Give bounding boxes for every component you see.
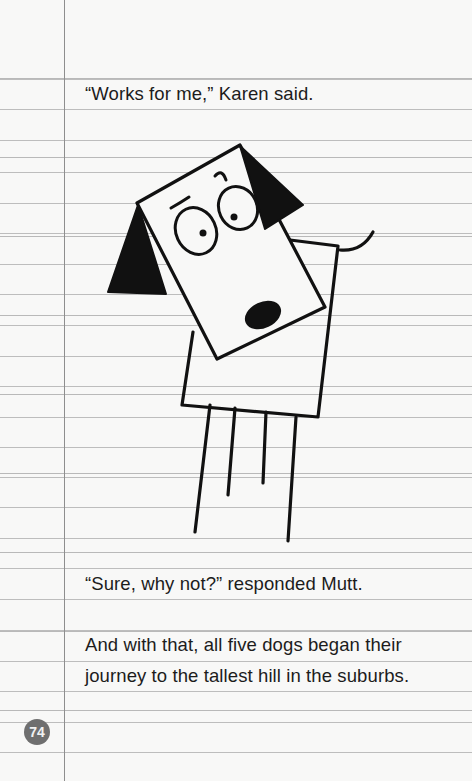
page-number-badge: 74 <box>24 719 50 745</box>
dog-head <box>137 145 325 359</box>
notebook-page: “Works for me,” Karen said. “Sure, why n… <box>0 0 472 781</box>
dog-illustration <box>0 0 472 781</box>
